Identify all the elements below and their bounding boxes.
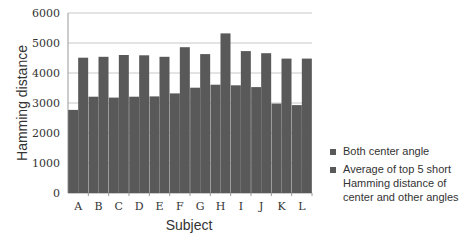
- bar: [68, 110, 78, 193]
- x-axis-ticks: ABCDEFGHIJKL: [73, 193, 312, 213]
- legend-label: Average of top 5 short: [343, 163, 451, 175]
- x-tick-label: D: [135, 200, 144, 213]
- bar: [292, 105, 302, 193]
- bar-chart: 0100020003000400050006000 ABCDEFGHIJKL H…: [0, 0, 462, 244]
- bar: [78, 58, 88, 193]
- legend-label: Both center angle: [343, 145, 429, 157]
- legend-swatch: [330, 149, 336, 155]
- bar: [241, 51, 251, 193]
- y-axis-title: Hamming distance: [14, 45, 30, 161]
- bar: [180, 47, 190, 193]
- bar: [200, 54, 210, 193]
- x-tick-label: H: [216, 200, 226, 213]
- bar: [190, 88, 200, 193]
- bar: [109, 98, 119, 193]
- x-tick-label: L: [298, 200, 306, 213]
- bar: [211, 85, 221, 193]
- legend: Both center angleAverage of top 5 shortH…: [330, 145, 459, 203]
- bar: [139, 55, 149, 193]
- x-tick-label: J: [258, 200, 263, 213]
- bar: [89, 97, 99, 193]
- bar: [119, 55, 129, 193]
- bar: [150, 96, 160, 193]
- x-tick-label: G: [196, 200, 205, 213]
- x-tick-label: I: [239, 200, 243, 213]
- bar: [99, 57, 109, 193]
- x-tick-label: E: [155, 200, 163, 213]
- bar: [160, 57, 170, 193]
- bar: [170, 93, 180, 193]
- legend-label: Hamming distance of: [343, 177, 447, 189]
- bars: [68, 33, 312, 193]
- bar: [302, 59, 312, 193]
- x-tick-label: B: [94, 200, 102, 213]
- y-tick-label: 0: [53, 187, 60, 200]
- bar: [261, 53, 271, 193]
- x-tick-label: F: [176, 200, 184, 213]
- bar: [251, 87, 261, 193]
- y-tick-label: 5000: [32, 37, 60, 50]
- x-axis-title: Subject: [166, 217, 213, 233]
- y-tick-label: 2000: [32, 127, 60, 140]
- bar: [221, 33, 231, 193]
- legend-swatch: [330, 167, 336, 173]
- x-tick-label: C: [115, 200, 123, 213]
- y-tick-label: 1000: [32, 157, 60, 170]
- x-tick-label: K: [277, 200, 286, 213]
- y-tick-label: 6000: [32, 7, 60, 20]
- legend-label: center and other angles: [343, 191, 459, 203]
- bar: [282, 59, 292, 193]
- y-tick-label: 4000: [32, 67, 60, 80]
- bar: [231, 85, 241, 193]
- bar: [272, 104, 282, 193]
- y-axis-ticks: 0100020003000400050006000: [32, 7, 60, 200]
- bar: [129, 97, 139, 193]
- x-tick-label: A: [73, 200, 83, 213]
- y-tick-label: 3000: [32, 97, 60, 110]
